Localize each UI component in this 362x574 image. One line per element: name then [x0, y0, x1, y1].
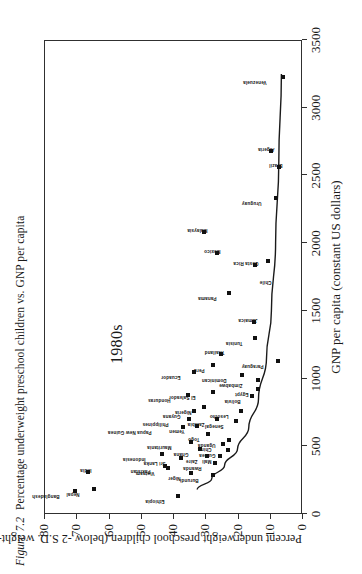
data-point-label: Paraguay — [242, 363, 264, 368]
data-point-label: Bangladesh — [32, 493, 60, 498]
y-axis-title: Percent underweight preschool children (… — [0, 531, 302, 546]
data-point-label: Jamaica — [238, 317, 257, 322]
data-point — [202, 405, 206, 409]
y-tick-mark — [44, 514, 45, 519]
y-tick-mark — [141, 514, 142, 519]
data-point-label: Tunisia — [226, 340, 243, 345]
data-point-label: Mali — [202, 458, 212, 463]
y-tick-mark — [270, 514, 271, 519]
data-point — [239, 409, 243, 413]
data-point — [266, 259, 270, 263]
data-point-label: Egypt — [236, 391, 250, 396]
data-point-label: Zaire — [186, 458, 198, 463]
data-point — [253, 336, 257, 340]
data-point — [192, 409, 196, 413]
data-point — [206, 432, 210, 436]
data-point — [189, 471, 193, 475]
data-point-label: Guinea — [199, 452, 215, 457]
x-axis-title: GNP per capita (constant US dollars) — [328, 40, 344, 514]
data-point — [166, 466, 170, 470]
x-tick-mark — [302, 39, 307, 40]
data-point — [227, 438, 231, 442]
data-point-label: Mexico — [204, 248, 220, 253]
data-point — [256, 378, 260, 382]
figure-caption: Figure 7.2Percentage underweight prescho… — [14, 216, 26, 566]
data-point-label: Sri Lanka — [144, 460, 166, 465]
x-tick-mark — [302, 445, 307, 446]
data-point — [160, 452, 164, 456]
y-tick-mark — [302, 514, 303, 519]
data-point — [218, 454, 222, 458]
data-point — [281, 75, 285, 79]
data-point-label: Togo — [189, 436, 200, 441]
data-point-label: Dominican — [202, 377, 227, 382]
data-point-label: Nepal — [66, 491, 79, 496]
data-point-label: Brazil — [270, 162, 283, 167]
x-tick-label: 1000 — [308, 366, 324, 392]
data-point-label: Burundi — [180, 477, 199, 482]
data-point-label: Panama — [199, 295, 218, 300]
data-point — [250, 394, 254, 398]
y-tick-mark — [173, 514, 174, 519]
data-point-label: Honduras — [147, 397, 170, 402]
data-point-label: Algeria — [258, 146, 275, 151]
data-point — [227, 291, 231, 295]
data-point-label: Ethiopia — [145, 498, 164, 503]
x-tick-label: 1500 — [308, 298, 324, 324]
data-point — [92, 487, 96, 491]
data-point-label: Peru — [194, 367, 205, 372]
y-tick-mark — [205, 514, 206, 519]
data-point-label: Ecuador — [161, 374, 180, 379]
data-point — [274, 196, 278, 200]
data-point-label: Rwanda — [183, 465, 202, 470]
data-point-label: Vietnam — [136, 470, 155, 475]
x-tick-mark — [302, 107, 307, 108]
data-point-label: Lesotho — [209, 413, 228, 418]
data-point-label: Uruguay — [242, 200, 262, 205]
data-point-label: Philippines — [143, 421, 169, 426]
data-point-label: India — [80, 467, 91, 472]
data-point — [226, 448, 230, 452]
figure-container: Figure 7.2Percentage underweight prescho… — [0, 0, 362, 574]
data-point — [256, 387, 260, 391]
data-point-label: Ghana — [174, 451, 189, 456]
data-point-label: Zimbabwe — [219, 382, 243, 387]
y-tick-mark — [76, 514, 77, 519]
data-point-label: Indonesia — [123, 456, 146, 461]
x-tick-label: 3000 — [308, 95, 324, 121]
data-point-label: Senegal — [205, 423, 224, 428]
data-point — [240, 373, 244, 377]
data-point-label: Papua New Guinea — [108, 429, 152, 434]
data-point-label: Uganda — [198, 442, 216, 447]
y-tick-mark — [109, 514, 110, 519]
era-annotation: 1980s — [108, 324, 126, 364]
data-point-label: Nigeria — [175, 409, 192, 414]
x-tick-mark — [302, 310, 307, 311]
x-tick-label: 2500 — [308, 162, 324, 188]
data-point-label: Zambia — [187, 421, 204, 426]
x-tick-label: 0 — [308, 511, 324, 518]
x-tick-mark — [302, 378, 307, 379]
figure-caption-text: Percentage underweight preschool childre… — [14, 216, 26, 510]
plot-frame — [44, 40, 302, 514]
data-point — [234, 419, 238, 423]
x-tick-mark — [302, 242, 307, 243]
x-tick-label: 500 — [308, 437, 324, 457]
data-point — [213, 461, 217, 465]
data-point — [211, 390, 215, 394]
data-point — [221, 442, 225, 446]
data-point-label: Mauritania — [147, 444, 171, 449]
x-tick-label: 2000 — [308, 230, 324, 256]
data-point-label: Venezuela — [243, 79, 267, 84]
x-tick-mark — [302, 174, 307, 175]
data-point-label: Thailand — [205, 349, 225, 354]
plot-rotation-wrapper: BangladeshNepalIndiaPakistanIndonesiaEth… — [34, 18, 352, 560]
data-point — [176, 494, 180, 498]
data-point-label: El Salvador — [169, 394, 196, 399]
data-point-label: Niger — [168, 475, 181, 480]
y-tick-mark — [238, 514, 239, 519]
data-point-label: Bolivia — [224, 398, 240, 403]
scatter-plot: BangladeshNepalIndiaPakistanIndonesiaEth… — [34, 18, 352, 560]
data-point — [211, 363, 215, 367]
data-point-label: Yemen — [169, 428, 185, 433]
